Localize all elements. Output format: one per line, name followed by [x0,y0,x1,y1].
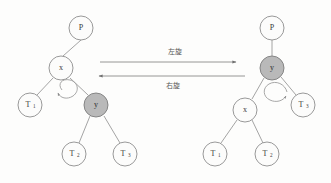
edge-y-x-right [252,78,264,99]
right-rotation-loop-arrow [264,82,287,101]
node-label-t2-left: T [70,149,75,158]
edge-p-x [63,40,81,56]
node-label-t1-left: T [26,100,31,109]
node-label-y-left: y [94,100,98,109]
node-label-x-right: x [243,105,247,114]
node-label-t1-right: T [211,149,216,158]
right-tree-edges [221,40,296,143]
left-tree-edges [37,40,120,143]
node-subscript-t2-left: 2 [77,152,80,158]
loop-path-ccw [58,80,77,99]
left-rotation-arrow: 左旋 [100,47,236,62]
right-rotation-arrow: 右旋 [99,76,245,90]
diagram-canvas: P x T 1 y T 2 T [0,0,331,183]
node-t1-left: T 1 [18,93,42,117]
loop-path-cw [264,82,287,101]
node-subscript-t1-right: 1 [218,152,221,158]
edge-x-t1-right [221,120,237,143]
edge-x-t2-right [252,120,263,143]
node-y-right: y [260,56,284,80]
node-subscript-t3-left: 3 [128,152,131,158]
node-p-left: P [69,16,93,40]
edge-y-t3 [104,116,120,143]
node-label-t3-left: T [121,149,126,158]
node-t2-right: T 2 [255,142,279,166]
edge-y-t2 [79,116,90,143]
node-y-left: y [84,93,108,117]
node-label-t3-right: T [299,100,304,109]
left-tree-nodes: P x T 1 y T 2 T [18,16,137,166]
node-t3-left: T 3 [113,142,137,166]
node-label-y-right: y [270,63,274,72]
right-rotation-arrow-label: 右旋 [166,81,180,90]
node-label-t2-right: T [263,149,268,158]
node-t3-right: T 3 [291,93,315,117]
node-p-right: P [260,16,284,40]
node-t2-left: T 2 [62,142,86,166]
node-subscript-t3-right: 3 [306,103,309,109]
node-subscript-t2-right: 2 [270,152,273,158]
node-label-p-left: P [79,23,84,32]
right-tree-nodes: P y x T 3 T 1 T [203,16,315,166]
left-rotation-arrow-label: 左旋 [168,47,182,56]
edge-x-t1 [37,78,53,95]
left-rotation-loop-arrow [58,80,77,99]
node-t1-right: T 1 [203,142,227,166]
node-subscript-t1-left: 1 [33,103,36,109]
node-x-left: x [49,56,73,80]
node-x-right: x [233,98,257,122]
node-label-p-right: P [270,23,275,32]
node-label-x-left: x [59,63,63,72]
tree-rotation-diagram: P x T 1 y T 2 T [0,0,331,183]
